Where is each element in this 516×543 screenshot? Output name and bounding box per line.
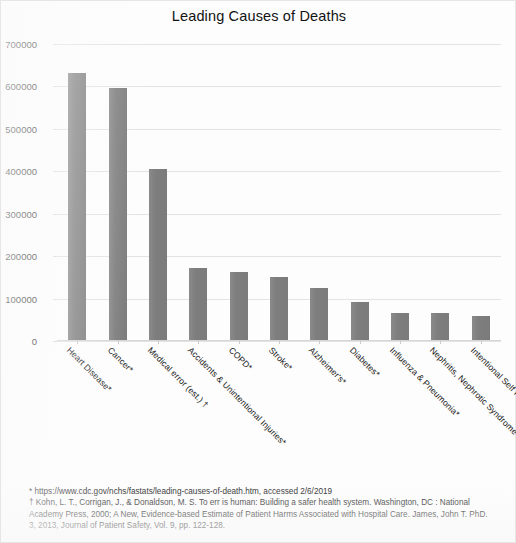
x-axis-tickmark bbox=[279, 341, 280, 344]
bar[interactable] bbox=[310, 288, 328, 341]
bar[interactable] bbox=[270, 277, 288, 341]
x-axis-label: Influenza & Pneumonia* bbox=[388, 345, 462, 419]
bars-group bbox=[57, 44, 501, 341]
footnote-source-kohn-james: † Kohn, L. T., Corrigan, J., & Donaldson… bbox=[29, 497, 491, 531]
x-axis-labels: Heart Disease*Cancer*Medical error (est.… bbox=[57, 345, 501, 475]
footnote-source-cdc: * https://www.cdc.gov/nchs/fastats/leadi… bbox=[29, 486, 491, 497]
x-axis-tickmark bbox=[481, 341, 482, 344]
x-axis-label: Cancer* bbox=[105, 345, 135, 375]
bar-slot bbox=[380, 44, 420, 341]
bar-slot bbox=[178, 44, 218, 341]
x-axis-tickmark bbox=[158, 341, 159, 344]
bar-slot bbox=[138, 44, 178, 341]
x-axis-tickmark bbox=[360, 341, 361, 344]
bar-slot bbox=[299, 44, 339, 341]
bar[interactable] bbox=[189, 268, 207, 341]
bar[interactable] bbox=[391, 313, 409, 341]
x-axis-tickmark bbox=[440, 341, 441, 344]
x-axis-tickmark bbox=[319, 341, 320, 344]
y-axis-tick-label: 600000 bbox=[0, 81, 37, 92]
chart-card: Leading Causes of Deaths 010000020000030… bbox=[0, 0, 516, 543]
bar[interactable] bbox=[109, 88, 127, 341]
x-axis-tickmark bbox=[239, 341, 240, 344]
x-axis-baseline bbox=[57, 340, 501, 341]
x-axis-label: Alzheimer's* bbox=[307, 345, 349, 387]
bar[interactable] bbox=[149, 169, 167, 341]
x-axis-tickmark bbox=[400, 341, 401, 344]
y-axis-tick-label: 0 bbox=[0, 336, 37, 347]
bar-slot bbox=[218, 44, 258, 341]
bar-slot bbox=[340, 44, 380, 341]
bar-slot bbox=[97, 44, 137, 341]
bar-slot bbox=[259, 44, 299, 341]
page-title: Leading Causes of Deaths bbox=[1, 8, 516, 24]
plot-area: 0100000200000300000400000500000600000700… bbox=[57, 44, 501, 341]
bar[interactable] bbox=[431, 313, 449, 341]
bar[interactable] bbox=[230, 272, 248, 341]
bar-slot bbox=[461, 44, 501, 341]
y-axis-tickmark bbox=[53, 341, 57, 342]
bar[interactable] bbox=[351, 302, 369, 341]
x-axis-label: Stroke* bbox=[267, 345, 294, 372]
y-axis-tick-label: 200000 bbox=[0, 251, 37, 262]
y-axis-tick-label: 400000 bbox=[0, 166, 37, 177]
x-axis-tickmark bbox=[118, 341, 119, 344]
y-axis-tick-label: 300000 bbox=[0, 208, 37, 219]
y-axis-tick-label: 700000 bbox=[0, 39, 37, 50]
bar-slot bbox=[57, 44, 97, 341]
y-axis-tick-label: 100000 bbox=[0, 293, 37, 304]
x-axis-tickmark bbox=[77, 341, 78, 344]
x-axis-label: Diabetes* bbox=[348, 345, 382, 379]
x-axis-label: Nephritis, Nephrotic Syndrome and Nephro… bbox=[428, 345, 516, 481]
y-axis-tick-label: 500000 bbox=[0, 123, 37, 134]
bar[interactable] bbox=[68, 73, 86, 341]
footnotes: * https://www.cdc.gov/nchs/fastats/leadi… bbox=[29, 486, 491, 532]
bar[interactable] bbox=[472, 316, 490, 341]
bar-slot bbox=[420, 44, 460, 341]
x-axis-tickmark bbox=[198, 341, 199, 344]
x-axis-label: COPD* bbox=[227, 345, 254, 372]
